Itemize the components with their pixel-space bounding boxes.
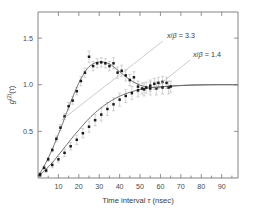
data-point-marker xyxy=(51,164,54,167)
data-point-marker xyxy=(59,126,62,128)
x-tick-label: 80 xyxy=(197,182,205,191)
data-point-marker xyxy=(92,65,95,68)
annotation-label: x/β = 1.4 xyxy=(192,50,221,59)
data-point-marker xyxy=(125,74,128,77)
data-point-marker xyxy=(80,80,83,83)
data-point-marker xyxy=(108,65,111,68)
data-point-marker xyxy=(161,86,164,89)
data-point-marker xyxy=(120,70,123,73)
data-point-marker xyxy=(67,105,70,108)
data-point-marker xyxy=(133,76,136,79)
data-point-marker xyxy=(47,158,50,161)
annotation-label: x/β = 3.3 xyxy=(166,31,195,40)
data-point-marker xyxy=(167,86,170,89)
data-point-marker xyxy=(165,82,168,85)
x-axis-title: Time interval τ (nsec) xyxy=(102,196,174,205)
data-point-marker xyxy=(51,149,54,152)
correlation-plot: 102030405060708090 0.51.01.5 x/β = 3.3x/… xyxy=(0,0,258,223)
data-point-marker xyxy=(45,169,48,172)
data-point-marker xyxy=(106,108,109,111)
data-point-marker xyxy=(137,89,140,92)
x-tick-label: 10 xyxy=(54,182,62,191)
data-point-marker xyxy=(149,87,152,90)
data-point-marker xyxy=(100,61,103,64)
data-point-marker xyxy=(82,132,85,135)
data-point-marker xyxy=(118,98,121,101)
data-point-marker xyxy=(112,62,115,64)
data-point-marker xyxy=(84,71,87,74)
y-tick-label: 1.5 xyxy=(23,34,33,43)
data-point-marker xyxy=(104,62,107,64)
data-point-marker xyxy=(129,79,132,82)
data-point-marker xyxy=(143,88,146,91)
data-point-marker xyxy=(69,145,72,148)
x-tick-label: 60 xyxy=(156,182,164,191)
data-point-marker xyxy=(76,139,79,142)
data-point-marker xyxy=(55,138,58,141)
data-point-marker xyxy=(39,174,42,177)
data-point-marker xyxy=(88,56,91,59)
x-tick-label: 50 xyxy=(136,182,144,191)
data-point-marker xyxy=(125,95,128,98)
y-tick-label: 1.0 xyxy=(23,80,33,89)
data-point-marker xyxy=(88,125,91,128)
x-axis-title-pre: Time interval xyxy=(102,196,147,205)
data-point-marker xyxy=(57,158,60,161)
x-axis-title-post: (nsec) xyxy=(150,196,174,205)
y-axis-title-arg: (τ) xyxy=(7,85,16,94)
x-tick-label: 40 xyxy=(116,182,124,191)
data-point-marker xyxy=(153,83,156,86)
data-point-marker xyxy=(76,90,79,93)
y-tick-label: 0.5 xyxy=(23,127,33,136)
data-point-marker xyxy=(96,62,99,64)
data-point-marker xyxy=(63,152,65,155)
x-tick-label: 90 xyxy=(218,182,226,191)
data-point-marker xyxy=(100,113,103,116)
data-point-marker xyxy=(131,92,134,95)
data-point-marker xyxy=(137,85,140,88)
chart-figure: 102030405060708090 0.51.01.5 x/β = 3.3x/… xyxy=(0,0,258,223)
data-point-marker xyxy=(157,82,160,85)
x-tick-label: 20 xyxy=(75,182,83,191)
annotation-value: = 1.4 xyxy=(203,50,221,59)
data-point-marker xyxy=(71,99,74,102)
data-point-marker xyxy=(149,84,152,87)
annotation-value: = 3.3 xyxy=(177,31,195,40)
x-tick-label: 70 xyxy=(177,182,185,191)
data-point-marker xyxy=(94,119,97,122)
data-point-marker xyxy=(112,103,115,106)
x-tick-label: 30 xyxy=(95,182,103,191)
data-point-marker xyxy=(43,166,46,169)
data-point-marker xyxy=(116,71,119,74)
